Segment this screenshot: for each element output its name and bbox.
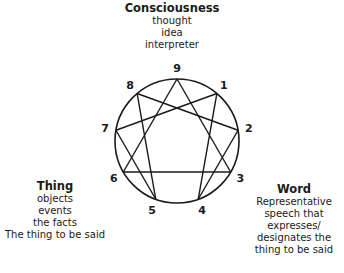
point-label-1: 1 — [220, 79, 228, 92]
point-label-2: 2 — [245, 122, 253, 135]
point-label-5: 5 — [148, 204, 156, 217]
point-label-8: 8 — [126, 79, 134, 92]
point-label-3: 3 — [236, 172, 244, 185]
enneagram-circle — [115, 79, 239, 203]
point-label-7: 7 — [101, 122, 109, 135]
point-label-4: 4 — [198, 204, 206, 217]
point-label-9: 9 — [173, 62, 181, 75]
enneagram-diagram: 912345678 — [0, 0, 344, 273]
enneagram-point-labels: 912345678 — [101, 62, 252, 217]
point-label-6: 6 — [110, 172, 118, 185]
